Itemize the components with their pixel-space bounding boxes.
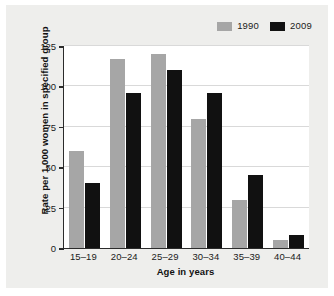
x-axis-tick-label: 40–44 [267,251,308,262]
x-axis-tick-label: 30–34 [185,251,226,262]
bar [289,235,304,248]
x-axis-tick-label: 15–19 [63,251,104,262]
chart-legend: 1990 2009 [217,19,312,33]
bar [69,151,84,248]
y-axis-tick-label: 75 [45,121,56,132]
bar [191,119,206,248]
x-axis-tick-label: 20–24 [104,251,145,262]
y-axis-tick-label: 100 [40,81,56,92]
legend-label-2009: 2009 [290,21,312,31]
x-axis-tick-label: 35–39 [226,251,267,262]
legend-swatch-2009 [270,22,285,31]
bar [273,240,288,248]
bar-group [64,46,105,248]
bar [207,93,222,248]
legend-entry-1990: 1990 [217,21,259,31]
x-axis-tick-labels: 15–1920–2425–2930–3435–3940–44 [63,251,308,262]
bar-group [186,46,227,248]
bar [85,183,100,248]
bar [110,59,125,248]
legend-label-1990: 1990 [237,21,259,31]
bar-groups [64,46,309,248]
plot-area: 0255075100125 [63,46,309,249]
bar [248,175,263,248]
y-axis-tick-label: 25 [45,202,56,213]
y-axis-tick-label: 0 [51,243,56,254]
legend-swatch-1990 [217,22,232,31]
chart-figure: 1990 2009 Rate per 1,000 women in specif… [6,5,328,288]
x-axis-tick-label: 25–29 [145,251,186,262]
legend-entry-2009: 2009 [270,21,312,31]
bar [126,93,141,248]
bar [151,54,166,248]
bar-group [227,46,268,248]
bar-group [268,46,309,248]
y-axis-tick-label: 50 [45,162,56,173]
y-axis-tick-mark [59,248,64,250]
bar-group [105,46,146,248]
bar-group [146,46,187,248]
x-axis-title: Age in years [63,266,308,277]
y-axis-tick-label: 125 [40,41,56,52]
bar [167,70,182,248]
bar [232,200,247,248]
